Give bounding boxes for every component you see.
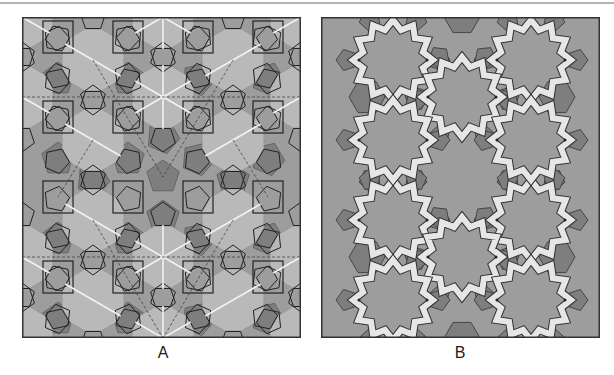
- panel-b-label: B: [440, 344, 480, 362]
- tessellation-figure: [22, 17, 301, 338]
- top-rule: [0, 2, 614, 4]
- strapwork-pattern-figure: [321, 17, 600, 338]
- panel-a-label: A: [143, 344, 183, 362]
- panel-a-tessellation: [22, 17, 301, 338]
- panel-b-pattern: [321, 17, 600, 338]
